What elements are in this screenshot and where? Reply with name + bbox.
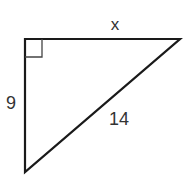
triangle-outline	[25, 39, 180, 172]
left-side-label: 9	[6, 93, 16, 113]
hypotenuse-label: 14	[109, 109, 129, 129]
right-angle-marker	[25, 39, 42, 57]
right-triangle-diagram: x 9 14	[0, 0, 195, 182]
top-side-label: x	[111, 15, 120, 34]
